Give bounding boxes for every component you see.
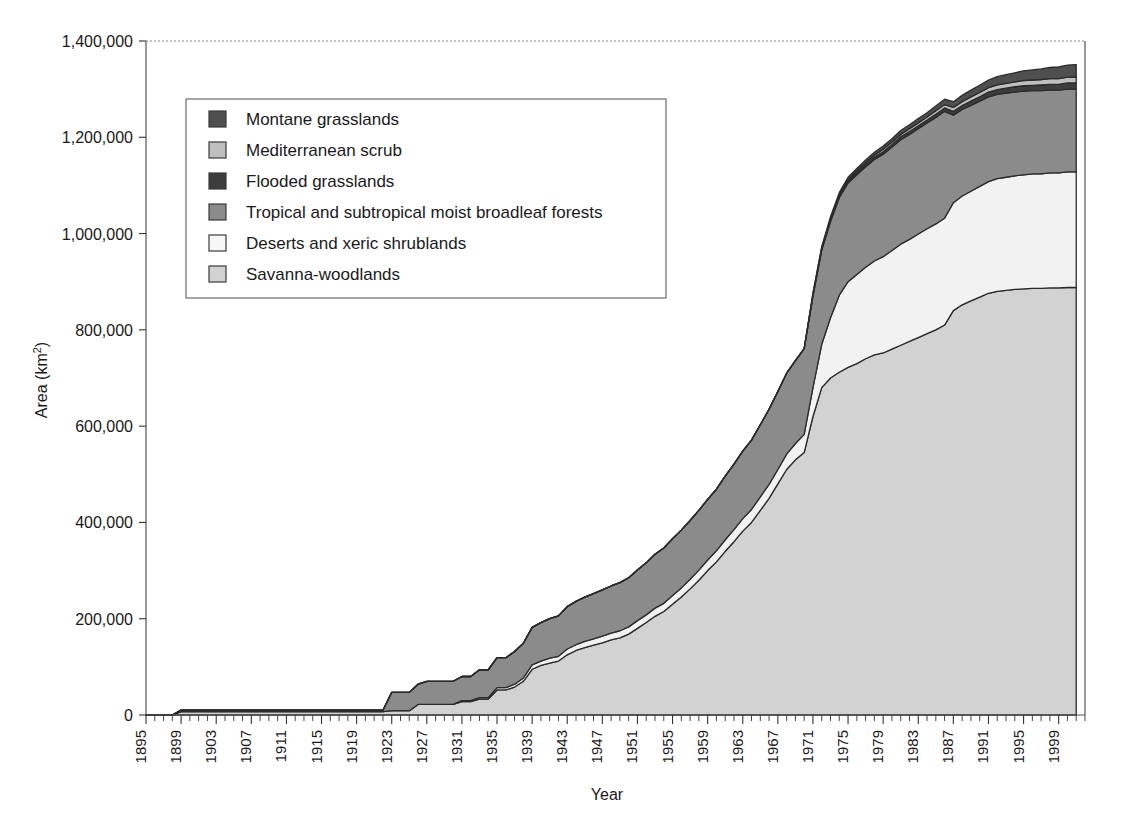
legend-label: Montane grasslands	[246, 110, 399, 129]
x-tick-label: 1915	[308, 730, 325, 763]
y-tick-label: 1,400,000	[62, 33, 133, 50]
x-tick-label: 1939	[518, 730, 535, 763]
x-tick-label: 1979	[869, 730, 886, 763]
x-tick-label: 1943	[553, 730, 570, 763]
x-tick-label: 1951	[623, 730, 640, 763]
x-axis-title: Year	[591, 786, 624, 803]
y-tick-label: 200,000	[75, 611, 133, 628]
x-tick-label: 1927	[413, 730, 430, 763]
x-tick-label: 1903	[202, 730, 219, 763]
x-tick-label: 1959	[694, 730, 711, 763]
x-tick-label: 1983	[904, 730, 921, 763]
x-tick-label: 1907	[237, 730, 254, 763]
x-tick-label: 1995	[1010, 730, 1027, 763]
x-tick-label: 1919	[343, 730, 360, 763]
chart-legend: Montane grasslandsMediterranean scrubFlo…	[186, 99, 666, 298]
x-tick-label: 1991	[974, 730, 991, 763]
x-tick-label: 1947	[588, 730, 605, 763]
x-tick-label: 1923	[378, 730, 395, 763]
y-axis-title-close: )	[33, 342, 50, 347]
legend-swatch-icon	[209, 111, 226, 127]
y-axis-title-main: Area (km	[33, 353, 50, 418]
legend-label: Deserts and xeric shrublands	[246, 234, 466, 253]
legend-swatch-icon	[209, 235, 226, 251]
x-tick-label: 1911	[272, 730, 289, 762]
y-tick-label: 0	[124, 707, 133, 724]
y-tick-label: 1,200,000	[62, 129, 133, 146]
legend-swatch-icon	[209, 266, 226, 282]
x-tick-label: 1975	[834, 730, 851, 763]
x-tick-label: 1963	[729, 730, 746, 763]
legend-label: Flooded grasslands	[246, 172, 394, 191]
legend-label: Savanna-woodlands	[246, 265, 400, 284]
legend-swatch-icon	[209, 173, 226, 189]
legend-label: Mediterranean scrub	[246, 141, 402, 160]
x-tick-label: 1971	[799, 730, 816, 763]
stacked-area-chart: 1,400,0001,200,0001,000,000800,000600,00…	[0, 0, 1125, 833]
legend-label: Tropical and subtropical moist broadleaf…	[246, 203, 603, 222]
legend-swatch-icon	[209, 142, 226, 158]
x-tick-label: 1899	[167, 730, 184, 763]
y-axis-title: Area (km2)	[31, 342, 50, 418]
x-tick-label: 1987	[939, 730, 956, 763]
x-tick-label: 1895	[132, 730, 149, 763]
y-tick-label: 1,000,000	[62, 226, 133, 243]
y-tick-label: 600,000	[75, 418, 133, 435]
y-tick-label: 800,000	[75, 322, 133, 339]
x-tick-label: 1931	[448, 730, 465, 763]
x-tick-label: 1967	[764, 730, 781, 763]
y-tick-label: 400,000	[75, 514, 133, 531]
x-tick-label: 1999	[1045, 730, 1062, 763]
x-tick-label: 1935	[483, 730, 500, 763]
chart-canvas: 1,400,0001,200,0001,000,000800,000600,00…	[0, 0, 1125, 833]
x-tick-label: 1955	[659, 730, 676, 763]
legend-swatch-icon	[209, 204, 226, 220]
